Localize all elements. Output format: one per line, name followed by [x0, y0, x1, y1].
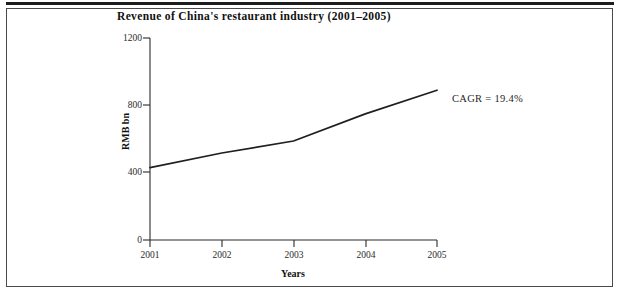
y-axis-tick-label-1200: 1200 — [108, 33, 142, 43]
x-axis-tick-label-2005: 2005 — [415, 250, 459, 260]
revenue-line-series — [150, 90, 437, 167]
x-axis-tick-label-2002: 2002 — [200, 250, 244, 260]
y-axis-tick-label-0: 0 — [108, 235, 142, 245]
cagr-annotation: CAGR = 19.4% — [452, 93, 523, 104]
x-axis-tick-label-2004: 2004 — [344, 250, 388, 260]
y-axis-tick-label-800: 800 — [108, 100, 142, 110]
y-axis-tick-label-400: 400 — [108, 167, 142, 177]
y-axis-title: RMB bn — [120, 110, 131, 154]
x-axis-tick-label-2001: 2001 — [128, 250, 172, 260]
figure-root: Revenue of China's restaurant industry (… — [0, 0, 624, 298]
x-axis-title: Years — [271, 268, 315, 279]
x-axis-tick-label-2003: 2003 — [272, 250, 316, 260]
